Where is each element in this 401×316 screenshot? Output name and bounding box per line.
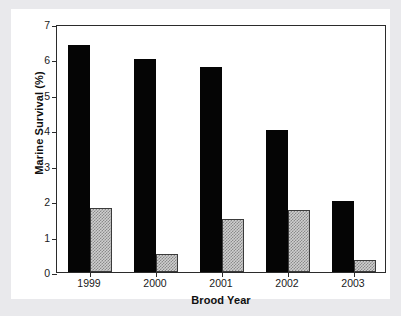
y-axis-tick-mark	[52, 132, 57, 133]
y-axis-tick-mark	[52, 274, 57, 275]
y-axis-tick-label: 4	[44, 125, 50, 138]
y-axis-tick-label: 3	[44, 161, 50, 174]
x-axis-tick-label: 2001	[209, 277, 232, 289]
y-axis-tick-label: 7	[44, 19, 50, 32]
x-axis-tick-label: 2000	[143, 277, 166, 289]
y-axis-tick-mark	[52, 26, 57, 27]
chart-figure: Marine Survival (%) 01234567 Brood Year …	[0, 0, 401, 316]
y-axis-title: Marine Survival (%)	[33, 48, 45, 198]
x-axis-tick-label: 2002	[275, 277, 298, 289]
bar-hatched-series-1999	[90, 208, 112, 272]
x-axis-tick-label: 1999	[77, 277, 100, 289]
y-axis-tick-mark	[52, 168, 57, 169]
bar-hatched-series-2000	[156, 254, 178, 272]
bar-hatched-series-2001	[222, 219, 244, 272]
bar-hatched-series-2002	[288, 210, 310, 272]
x-axis-title: Brood Year	[56, 294, 386, 306]
x-axis-tick-label: 2003	[341, 277, 364, 289]
y-axis-tick-label: 6	[44, 54, 50, 67]
bar-black-series-1999	[68, 45, 90, 272]
bar-black-series-2003	[332, 201, 354, 272]
y-axis-tick-mark	[52, 239, 57, 240]
figure-panel: Marine Survival (%) 01234567 Brood Year …	[11, 9, 390, 299]
bar-hatched-series-2003	[354, 260, 376, 272]
y-axis-tick-mark	[52, 203, 57, 204]
y-axis-tick-mark	[52, 61, 57, 62]
y-axis-tick-label: 0	[44, 267, 50, 280]
plot-inner: 01234567	[57, 26, 385, 272]
plot-area: 01234567	[56, 25, 386, 273]
bar-black-series-2002	[266, 130, 288, 272]
y-axis-tick-label: 1	[44, 232, 50, 245]
y-axis-tick-mark	[52, 97, 57, 98]
bar-black-series-2000	[134, 59, 156, 272]
y-axis-tick-label: 2	[44, 196, 50, 209]
bar-black-series-2001	[200, 67, 222, 272]
y-axis-tick-label: 5	[44, 90, 50, 103]
